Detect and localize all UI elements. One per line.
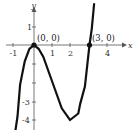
- point-3-0: [87, 42, 92, 47]
- point-label: (0, 0): [37, 33, 60, 43]
- x-tick-label: 4: [105, 49, 110, 58]
- function-graph: -1 1 2 4 1 -3 -4 x y (0, 0) (3, 0): [0, 0, 134, 130]
- y-tick-label: -4: [22, 116, 30, 125]
- y-tick-label: -3: [22, 98, 30, 107]
- x-tick-label: 2: [68, 49, 73, 58]
- point-origin: [31, 42, 36, 47]
- x-tick-label: 1: [50, 49, 55, 58]
- x-tick-label: -1: [10, 49, 18, 58]
- x-axis-label: x: [128, 41, 133, 50]
- point-label: (3, 0): [92, 33, 115, 43]
- y-axis-label: y: [31, 1, 37, 10]
- x-axis-arrow-icon: [122, 43, 127, 48]
- y-tick-label: 1: [27, 23, 32, 32]
